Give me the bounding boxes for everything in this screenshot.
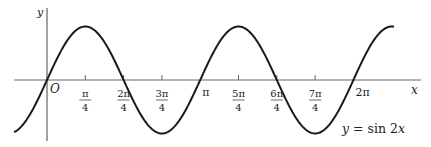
- x-tick-denominator: 4: [312, 102, 318, 113]
- sine-graph: y x O π42π43π4π5π46π47π42π y = sin 2x: [0, 0, 431, 147]
- x-tick-numerator: 3π: [155, 88, 168, 99]
- x-tick-numerator: 7π: [309, 88, 322, 99]
- x-tick-label: 2π: [355, 86, 369, 99]
- y-axis-label: y: [36, 6, 44, 19]
- x-axis-label: x: [411, 83, 418, 97]
- origin-label: O: [50, 82, 60, 96]
- function-label: y = sin 2x: [341, 121, 405, 136]
- x-tick-denominator: 4: [82, 102, 88, 113]
- x-tick-denominator: 4: [235, 102, 241, 113]
- x-tick-denominator: 4: [274, 102, 280, 113]
- x-tick-numerator: 5π: [232, 88, 245, 99]
- x-tick-denominator: 4: [120, 102, 126, 113]
- x-tick-label: π: [202, 86, 209, 99]
- x-tick-numerator: π: [82, 88, 89, 99]
- x-tick-denominator: 4: [159, 102, 165, 113]
